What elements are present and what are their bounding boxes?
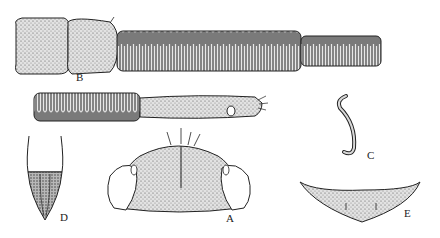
- figure-plate: B C D A E: [0, 0, 440, 238]
- panel-e-plate: [300, 182, 420, 222]
- panel-c-hook: [339, 96, 354, 153]
- panel-b-appendage: [16, 17, 382, 74]
- panel-a-head: [108, 128, 251, 212]
- panel-label-d: D: [60, 212, 68, 223]
- panel-b2-appendage: [34, 93, 268, 121]
- illustration-canvas: [0, 0, 440, 238]
- panel-d-terminal: [27, 136, 63, 220]
- panel-label-c: C: [367, 150, 374, 161]
- panel-label-e: E: [404, 208, 411, 219]
- panel-label-a: A: [226, 213, 234, 224]
- panel-label-b: B: [76, 72, 83, 83]
